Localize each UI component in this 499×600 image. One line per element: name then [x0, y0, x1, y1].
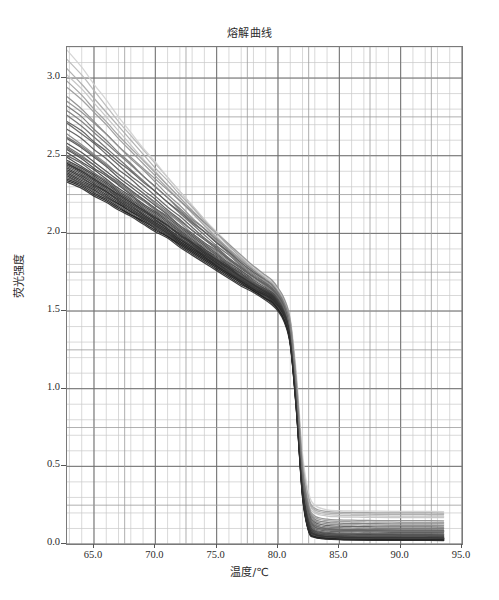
x-axis-tick-label: 70.0 — [124, 549, 184, 560]
x-axis-tick-label: 65.0 — [63, 549, 123, 560]
y-axis-tick-mark — [61, 232, 66, 233]
y-axis-tick-mark — [61, 465, 66, 466]
plot-canvas — [67, 47, 462, 544]
y-axis-tick-mark — [61, 543, 66, 544]
x-axis-tick-mark — [338, 544, 339, 548]
x-axis-tick-mark — [216, 544, 217, 548]
melting-curve-figure: 熔解曲线 0.00.51.01.52.02.53.0 65.070.075.08… — [0, 0, 499, 600]
y-axis-tick-label: 3.0 — [6, 70, 60, 81]
x-axis-tick-mark — [400, 544, 401, 548]
y-axis-label: 荧光强度 — [10, 236, 26, 316]
x-axis-tick-label: 95.0 — [431, 549, 491, 560]
x-axis-tick-mark — [93, 544, 94, 548]
y-axis-tick-label: 1.0 — [6, 381, 60, 392]
y-axis-tick-label: 2.5 — [6, 148, 60, 159]
y-axis-tick-label: 0.0 — [6, 536, 60, 547]
y-axis-tick-label: 2.0 — [6, 225, 60, 236]
y-axis-tick-mark — [61, 77, 66, 78]
x-axis-tick-label: 75.0 — [186, 549, 246, 560]
y-axis-tick-mark — [61, 310, 66, 311]
y-axis-tick-label: 0.5 — [6, 458, 60, 469]
plot-area — [66, 46, 463, 545]
y-axis-tick-mark — [61, 388, 66, 389]
chart-title: 熔解曲线 — [0, 24, 499, 40]
x-axis-tick-mark — [277, 544, 278, 548]
y-axis-tick-mark — [61, 155, 66, 156]
x-axis-tick-label: 90.0 — [370, 549, 430, 560]
x-axis-label: 温度/℃ — [0, 563, 499, 579]
x-axis-tick-mark — [154, 544, 155, 548]
x-axis-tick-mark — [461, 544, 462, 548]
x-axis-tick-label: 85.0 — [308, 549, 368, 560]
x-axis-tick-label: 80.0 — [247, 549, 307, 560]
